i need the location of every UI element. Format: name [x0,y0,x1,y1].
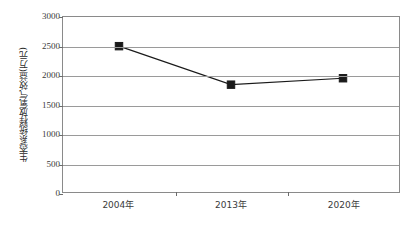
y-tick-label: 500 [47,159,61,169]
gridline [63,135,399,136]
gridline [63,47,399,48]
x-axis-tick-labels: 2004年2013年2020年 [62,198,400,218]
x-tick-label: 2004年 [102,198,134,211]
series-line [119,46,343,85]
data-point-marker [227,81,234,88]
y-axis-title-text: 生态系统释放氧气效益(万元) [19,47,28,162]
y-tick-label: 2500 [42,41,60,51]
y-axis-tick-labels: 050010001500200025003000 [28,0,60,228]
y-tick-label: 3000 [42,11,60,21]
series-line-chart [63,17,399,192]
y-tick-label: 2000 [42,70,60,80]
y-tick-mark [59,135,63,136]
y-tick-mark [59,47,63,48]
y-tick-mark [59,17,63,18]
y-tick-mark [59,76,63,77]
y-tick-label: 0 [56,188,61,198]
y-tick-label: 1000 [42,129,60,139]
chart-figure: 生态系统释放氧气效益(万元) 050010001500200025003000 … [0,0,416,228]
y-tick-mark [59,165,63,166]
x-tick-label: 2020年 [328,198,360,211]
x-tick-label: 2013年 [215,198,247,211]
y-tick-mark [59,194,63,195]
plot-area [62,16,400,193]
gridline [63,76,399,77]
x-tick-mark [288,192,289,196]
y-tick-mark [59,106,63,107]
gridline [63,106,399,107]
y-tick-label: 1500 [42,100,60,110]
x-tick-mark [176,192,177,196]
gridline [63,165,399,166]
